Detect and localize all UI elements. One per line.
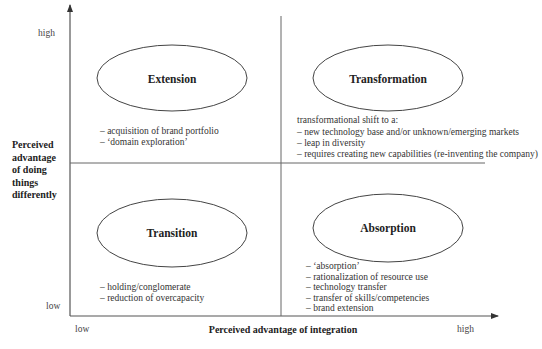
- transformation-list: transformational shift to a: – new techn…: [297, 115, 538, 160]
- transformation-label: Transformation: [349, 73, 427, 85]
- transition-label: Transition: [147, 227, 198, 239]
- absorption-list: – ‘absorption’ – rationalization of reso…: [306, 261, 429, 314]
- list-item: – leap in diversity: [297, 138, 538, 149]
- list-item: – rationalization of resource use: [306, 272, 429, 283]
- x-axis-high-label: high: [457, 324, 474, 334]
- y-axis-label-line: advantage: [12, 152, 57, 165]
- list-item: – ‘domain exploration’: [100, 137, 219, 148]
- y-axis-label: Perceived advantage of doing things diff…: [12, 139, 57, 202]
- absorption-label: Absorption: [360, 222, 416, 234]
- list-item: – ‘absorption’: [306, 261, 429, 272]
- list-item: – brand extension: [306, 303, 429, 314]
- list-item: – acquisition of brand portfolio: [100, 126, 219, 137]
- transformation-intro: transformational shift to a:: [297, 115, 538, 126]
- list-item: – holding/conglomerate: [100, 282, 204, 293]
- y-axis-high-label: high: [38, 28, 55, 38]
- diagram-canvas: [0, 0, 542, 349]
- y-axis-label-line: things: [12, 177, 57, 190]
- x-axis-label: Perceived advantage of integration: [209, 324, 357, 335]
- extension-list: – acquisition of brand portfolio – ‘doma…: [100, 126, 219, 148]
- list-item: – requires creating new capabilities (re…: [297, 149, 538, 160]
- list-item: – technology transfer: [306, 282, 429, 293]
- transition-list: – holding/conglomerate – reduction of ov…: [100, 282, 204, 304]
- x-axis-low-label: low: [75, 324, 89, 334]
- extension-label: Extension: [148, 73, 197, 85]
- y-axis-low-label: low: [46, 301, 60, 311]
- list-item: – new technology base and/or unknown/eme…: [297, 127, 538, 138]
- y-axis-label-line: of doing: [12, 164, 57, 177]
- list-item: – reduction of overcapacity: [100, 293, 204, 304]
- list-item: – transfer of skills/competencies: [306, 293, 429, 304]
- y-axis-label-line: differently: [12, 189, 57, 202]
- y-axis-label-line: Perceived: [12, 139, 57, 152]
